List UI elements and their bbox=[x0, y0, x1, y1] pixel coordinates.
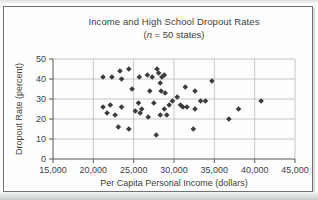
y-tick-label: 10 bbox=[28, 135, 46, 144]
data-point bbox=[192, 88, 198, 94]
chart-title: Income and High School Dropout Rates bbox=[53, 16, 295, 27]
x-axis-title: Per Capita Personal Income (dollars) bbox=[53, 178, 295, 188]
x-tick-label: 25,000 bbox=[114, 166, 154, 175]
data-point bbox=[136, 100, 142, 106]
x-tick-label: 45,000 bbox=[275, 166, 315, 175]
chart-card: Income and High School Dropout Rates (n … bbox=[3, 6, 313, 192]
y-tick-label: 40 bbox=[28, 75, 46, 84]
x-tick-label: 15,000 bbox=[33, 166, 73, 175]
data-point bbox=[100, 104, 106, 110]
y-tick-label: 20 bbox=[28, 115, 46, 124]
data-point bbox=[191, 126, 197, 132]
data-point bbox=[157, 112, 163, 118]
x-tick-label: 40,000 bbox=[235, 166, 275, 175]
data-point bbox=[182, 84, 188, 90]
scan-edge-bottom bbox=[0, 192, 318, 200]
data-point bbox=[166, 102, 172, 108]
y-tick-label: 50 bbox=[28, 55, 46, 64]
data-point bbox=[107, 102, 113, 108]
chart-subtitle: (n = 50 states) bbox=[53, 29, 295, 40]
plot-svg bbox=[53, 59, 295, 159]
data-point bbox=[147, 88, 153, 94]
data-point bbox=[226, 116, 232, 122]
x-tick-label: 20,000 bbox=[73, 166, 113, 175]
figure-page: Income and High School Dropout Rates (n … bbox=[0, 0, 318, 200]
data-point bbox=[126, 126, 132, 132]
data-point bbox=[119, 104, 125, 110]
data-point bbox=[112, 112, 118, 118]
data-point bbox=[151, 100, 157, 106]
data-point bbox=[116, 124, 122, 130]
data-point bbox=[126, 66, 132, 72]
y-tick-label: 30 bbox=[28, 95, 46, 104]
data-point bbox=[104, 110, 110, 116]
data-point bbox=[192, 106, 198, 112]
data-point bbox=[119, 76, 125, 82]
data-point bbox=[162, 106, 168, 112]
y-tick-label: 0 bbox=[28, 155, 46, 164]
scan-edge-top bbox=[0, 0, 318, 3]
data-point bbox=[157, 80, 163, 86]
data-point bbox=[153, 132, 159, 138]
plot-area bbox=[53, 59, 295, 159]
x-tick-label: 35,000 bbox=[194, 166, 234, 175]
data-point bbox=[145, 72, 151, 78]
y-axis-title: Dropout Rate (percent) bbox=[14, 63, 24, 155]
x-tick-label: 30,000 bbox=[154, 166, 194, 175]
data-point bbox=[236, 106, 242, 112]
subtitle-rest: = 50 states) bbox=[152, 29, 205, 40]
data-point bbox=[184, 104, 190, 110]
data-point bbox=[117, 68, 123, 74]
data-point bbox=[164, 112, 170, 118]
